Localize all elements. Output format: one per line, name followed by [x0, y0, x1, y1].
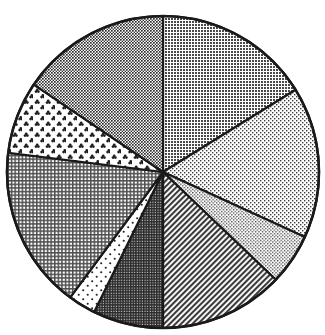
pie-chart-svg: [0, 0, 325, 335]
pie-slices-group: [7, 16, 319, 328]
pie-chart-container: [0, 0, 325, 335]
